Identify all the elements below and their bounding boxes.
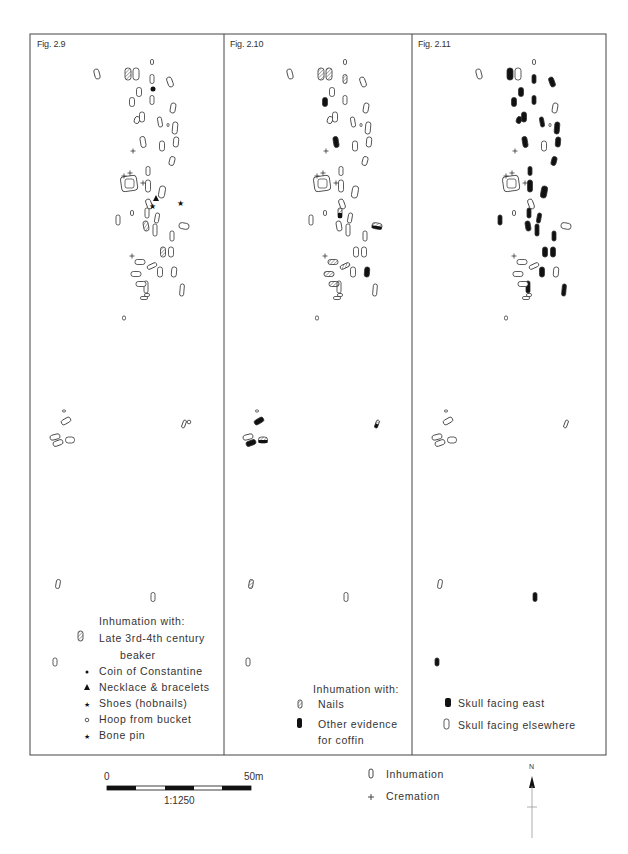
grave-icon: [507, 68, 513, 80]
grave-icon: [518, 282, 528, 287]
legend-heading: Inhumation with:: [99, 615, 185, 627]
grave-icon: [256, 410, 259, 412]
grave-icon: [432, 433, 443, 440]
fig-title-2-10: Fig. 2.10: [230, 39, 263, 49]
grave-icon: [528, 180, 533, 192]
svg-text:★: ★: [84, 733, 90, 740]
grave-icon: [535, 224, 539, 236]
legend-label-coin: Coin of Constantine: [99, 665, 203, 677]
grave-icon: [522, 136, 529, 148]
grave-icon: [131, 211, 134, 216]
grave-icon: [179, 222, 190, 230]
grave-icon: [336, 221, 343, 232]
grave-icon: [527, 294, 532, 297]
cremation-icon: [128, 171, 133, 176]
fig-title-2-11: Fig. 2.11: [418, 39, 451, 49]
grave-icon: [344, 593, 348, 602]
grave-icon: [173, 137, 179, 147]
grave-icon: [529, 262, 540, 270]
grave-icon: [154, 213, 160, 224]
grave-icon: [363, 231, 367, 241]
grave-icon: [561, 222, 572, 230]
grave-icon: [551, 247, 556, 257]
grave-icon: [136, 282, 146, 287]
grave-icon: [448, 437, 457, 443]
grave-icon: [150, 75, 154, 84]
grave-icon: [498, 215, 502, 225]
grave-icon: [324, 272, 334, 277]
grave-icon: [168, 156, 175, 166]
grave-icon: [435, 658, 439, 666]
grave-icon: [366, 137, 372, 147]
grave-icon: [353, 141, 358, 151]
grave-icon: [351, 186, 359, 199]
grave-icon: [359, 76, 367, 87]
grave-icon: [161, 247, 166, 257]
grave-icon: [171, 267, 177, 277]
grave-icon: [363, 103, 370, 114]
grave-icon: [360, 124, 362, 127]
north-label: N: [529, 763, 534, 770]
grave-icon: [66, 437, 75, 443]
legend-label-pin: Bone pin: [99, 729, 145, 741]
grave-icon: [333, 112, 338, 122]
legend-label-beaker: Late 3rd-4th century: [99, 632, 205, 644]
grave-icon: [512, 98, 517, 107]
grave-icon: [140, 112, 145, 122]
grave-icon: [548, 76, 556, 87]
grave-icon: [160, 141, 165, 151]
key-inhumation: Inhumation: [386, 768, 444, 780]
grave-icon: [125, 68, 131, 80]
grave-icon: [246, 658, 250, 666]
grave-icon: [143, 221, 150, 232]
grave-icon: [554, 122, 560, 134]
panel-borders: [30, 34, 606, 755]
enclosure: [120, 175, 138, 192]
grave-icon: [351, 267, 356, 277]
enclosure: [502, 175, 520, 192]
scale-bar: [107, 786, 251, 790]
grave-icon: [445, 410, 448, 412]
grave-icon: [344, 60, 347, 65]
grave-icon: [151, 593, 155, 602]
cremation-icon: [321, 171, 326, 176]
grave-icon: [316, 316, 319, 320]
grave-icon: [553, 267, 559, 277]
grave-icon: [561, 284, 566, 296]
grave-icon: [137, 88, 142, 97]
grave-icon: [533, 593, 537, 602]
grave-icon: [515, 68, 521, 80]
grave-icon: [53, 658, 57, 666]
grave-icon: [555, 137, 561, 147]
grave-icon: [442, 416, 453, 425]
grave-icon: [318, 68, 324, 80]
legend-label-coffin: Other evidence: [318, 718, 398, 730]
cremation-icon: [324, 149, 329, 154]
grave-icon: [63, 410, 66, 412]
grave-icon: [135, 260, 145, 265]
grave-icon: [437, 579, 443, 589]
grave-icon: [523, 297, 530, 300]
grave-icon: [532, 96, 536, 105]
legend-label-shoes: Shoes (hobnails): [99, 697, 187, 709]
grave-icon: [123, 316, 126, 320]
grave-icon: [505, 316, 508, 320]
grave-icon: [334, 297, 341, 300]
grave-icon: [343, 96, 347, 105]
grave-icon: [543, 247, 548, 257]
grave-map-panel-3: [432, 60, 572, 667]
grave-icon: [527, 208, 531, 218]
grave-icon: [130, 98, 135, 107]
cremation-icon: [131, 149, 136, 154]
grave-icon: [552, 231, 556, 241]
grave-map-panel-2: [243, 60, 383, 667]
cremation-icon: [513, 149, 518, 154]
grave-icon: [365, 122, 371, 134]
svg-text:★: ★: [84, 701, 90, 708]
grave-icon: [528, 167, 532, 176]
grave-icon: [323, 98, 328, 107]
cremation-icon: [523, 181, 528, 186]
grave-icon: [340, 262, 351, 270]
grave-icon: [179, 284, 184, 296]
cremation-icon: [512, 254, 517, 259]
